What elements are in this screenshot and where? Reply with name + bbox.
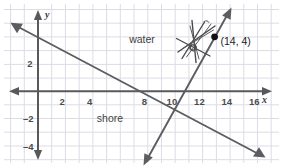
y-axis-label: y <box>44 9 50 20</box>
x-tick-label-8: 8 <box>142 96 147 107</box>
y-tick-label-minus-2: –2 <box>23 113 34 124</box>
graph-figure: y x 2 4 8 10 12 14 16 2 –2 –4 <box>0 0 283 167</box>
x-tick-label-14: 14 <box>222 96 233 107</box>
y-tick-label-2: 2 <box>27 58 32 69</box>
x-tick-label-10: 10 <box>167 96 178 107</box>
point-marker-14-4 <box>211 33 218 40</box>
x-tick-label-4: 4 <box>87 96 93 107</box>
x-tick-label-16: 16 <box>249 96 260 107</box>
water-annotation: water <box>128 33 155 45</box>
y-tick-label-minus-4: –4 <box>23 141 34 152</box>
figure-background <box>0 0 283 167</box>
shore-annotation: shore <box>97 112 123 124</box>
x-axis-label: x <box>261 94 267 105</box>
point-label: (14, 4) <box>221 35 251 47</box>
coordinate-plane-svg: y x 2 4 8 10 12 14 16 2 –2 –4 <box>0 0 283 167</box>
x-tick-label-12: 12 <box>194 96 205 107</box>
x-tick-label-2: 2 <box>60 96 65 107</box>
